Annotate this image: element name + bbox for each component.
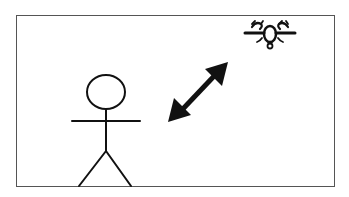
drone-icon <box>245 21 295 49</box>
person-icon <box>72 75 140 186</box>
diagram-canvas <box>0 0 349 197</box>
bidirectional-arrow-icon <box>168 62 228 122</box>
